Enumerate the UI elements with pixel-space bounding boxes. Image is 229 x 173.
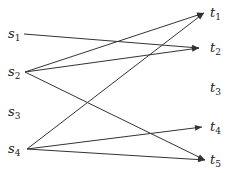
bipartite-graph: s1s2s3s4t1t2t3t4t5 xyxy=(0,0,229,173)
edge-s2-t1 xyxy=(25,13,204,72)
node-label-t1: t1 xyxy=(210,5,221,22)
node-label-t4: t4 xyxy=(210,119,221,136)
edge-s1-t2 xyxy=(24,34,199,48)
edge-s4-t1 xyxy=(27,13,204,149)
node-labels: s1s2s3s4t1t2t3t4t5 xyxy=(8,5,221,169)
node-label-t3: t3 xyxy=(210,80,221,97)
node-label-t2: t2 xyxy=(210,40,221,57)
node-label-t5: t5 xyxy=(210,152,221,169)
edge-s4-t5 xyxy=(27,149,205,160)
node-label-s3: s3 xyxy=(8,104,21,121)
node-label-s4: s4 xyxy=(8,141,21,158)
edges xyxy=(24,13,205,160)
node-label-s1: s1 xyxy=(8,26,20,43)
edge-s2-t5 xyxy=(25,72,205,160)
edge-s2-t2 xyxy=(25,48,199,72)
node-label-s2: s2 xyxy=(8,64,20,81)
